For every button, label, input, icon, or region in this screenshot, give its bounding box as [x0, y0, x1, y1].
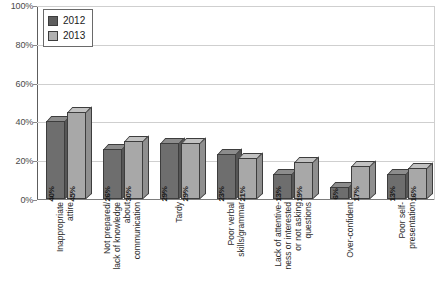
- bar-value-label: 29%: [160, 186, 169, 201]
- bar-value-label: 19%: [295, 186, 304, 201]
- bar-side-face: [200, 137, 206, 199]
- bar-2013-3: 21%: [238, 158, 257, 199]
- bar-front-face: 13%: [387, 174, 406, 199]
- bar-value-label: 21%: [238, 186, 247, 201]
- bar-value-label: 40%: [47, 186, 56, 201]
- y-tick-label: 60%: [16, 79, 33, 89]
- bar-value-label: 45%: [68, 186, 77, 201]
- x-tick-label: Not prepared/ lack of knowledge about co…: [94, 202, 151, 300]
- bar-value-label: 23%: [217, 186, 226, 201]
- bar-front-face: 23%: [217, 154, 236, 199]
- bar-side-face: [143, 135, 149, 199]
- bar-2013-1: 30%: [124, 141, 143, 199]
- x-tick-label: Poor self- presentation: [378, 202, 435, 300]
- legend-swatch-2012-icon: [48, 16, 58, 26]
- bar-front-face: 29%: [160, 143, 179, 199]
- x-tick-label: Over-confident: [321, 202, 378, 300]
- bar-group: 13%19%: [264, 5, 321, 199]
- bar-2012-1: 26%: [103, 149, 122, 199]
- x-axis-category-labels: Inappropriate attireNot prepared/ lack o…: [37, 202, 435, 302]
- bar-value-label: 26%: [103, 186, 112, 201]
- bar-group: 23%21%: [208, 5, 265, 199]
- bar-front-face: 40%: [46, 121, 65, 199]
- bar-front-face: 21%: [238, 158, 257, 199]
- legend-item-2012: 2012: [48, 13, 85, 28]
- bar-2013-5: 17%: [351, 166, 370, 199]
- bar-value-label: 17%: [352, 186, 361, 201]
- bar-front-face: 29%: [181, 143, 200, 199]
- bar-2013-6: 16%: [408, 168, 427, 199]
- bar-front-face: 16%: [408, 168, 427, 199]
- y-tick-label: 100%: [11, 1, 33, 11]
- bar-2012-6: 13%: [387, 174, 406, 199]
- x-tick-label-text: Not prepared/ lack of knowledge about co…: [102, 202, 142, 300]
- bar-layer: 40%45%26%30%29%29%23%21%13%19%6%17%13%16…: [37, 6, 435, 200]
- bar-front-face: 30%: [124, 141, 143, 199]
- y-tick-label: 20%: [16, 156, 33, 166]
- bar-chart: 0%20%40%60%80%100% 40%45%26%30%29%29%23%…: [0, 0, 440, 302]
- x-tick-label: Poor verbal skills/grammar: [208, 202, 265, 300]
- bar-2012-5: 6%: [330, 187, 349, 199]
- bar-2012-0: 40%: [46, 121, 65, 199]
- bar-2012-4: 13%: [273, 174, 292, 199]
- bar-value-label: 29%: [181, 186, 190, 201]
- y-tick-label: 40%: [16, 117, 33, 127]
- legend-label-2012: 2012: [63, 15, 85, 26]
- x-tick-label-text: Tardy: [174, 202, 184, 300]
- bar-group: 13%16%: [378, 5, 435, 199]
- legend-swatch-2013-icon: [48, 31, 58, 41]
- x-tick-label-text: Lack of attentive- ness or interested or…: [273, 202, 313, 300]
- bar-value-label: 6%: [331, 189, 340, 200]
- bar-2013-0: 45%: [67, 112, 86, 199]
- bar-value-label: 16%: [409, 186, 418, 201]
- x-tick-label-text: Poor self- presentation: [397, 202, 417, 300]
- bar-side-face: [313, 157, 319, 199]
- bar-front-face: 17%: [351, 166, 370, 199]
- x-tick-label: Tardy: [151, 202, 208, 300]
- plot-area: 40%45%26%30%29%29%23%21%13%19%6%17%13%16…: [37, 6, 435, 200]
- bar-side-face: [427, 163, 433, 199]
- bar-side-face: [86, 106, 92, 199]
- y-tick-label: 80%: [16, 40, 33, 50]
- legend-item-2013: 2013: [48, 28, 85, 43]
- bar-front-face: 6%: [330, 187, 349, 199]
- bar-front-face: 26%: [103, 149, 122, 199]
- bar-2013-2: 29%: [181, 143, 200, 199]
- x-tick-label: Inappropriate attire: [37, 202, 94, 300]
- bar-2012-2: 29%: [160, 143, 179, 199]
- x-tick-label: Lack of attentive- ness or interested or…: [264, 202, 321, 300]
- bar-2012-3: 23%: [217, 154, 236, 199]
- x-tick-label-text: Inappropriate attire: [55, 202, 75, 300]
- bar-value-label: 13%: [274, 186, 283, 201]
- y-tick-mark: [33, 200, 37, 201]
- bar-side-face: [257, 153, 263, 199]
- bar-group: 29%29%: [151, 5, 208, 199]
- bar-2013-4: 19%: [294, 162, 313, 199]
- bar-value-label: 30%: [124, 186, 133, 201]
- bar-front-face: 13%: [273, 174, 292, 199]
- bar-front-face: 19%: [294, 162, 313, 199]
- bar-value-label: 13%: [388, 186, 397, 201]
- bar-front-face: 45%: [67, 112, 86, 199]
- bar-group: 6%17%: [321, 5, 378, 199]
- y-axis: 0%20%40%60%80%100%: [0, 0, 33, 302]
- bar-side-face: [370, 161, 376, 199]
- bar-group: 26%30%: [94, 5, 151, 199]
- y-tick-label: 0%: [20, 195, 33, 205]
- chart-legend: 2012 2013: [43, 9, 93, 47]
- legend-label-2013: 2013: [63, 30, 85, 41]
- x-tick-label-text: Poor verbal skills/grammar: [226, 202, 246, 300]
- x-tick-label-text: Over-confident: [345, 202, 355, 300]
